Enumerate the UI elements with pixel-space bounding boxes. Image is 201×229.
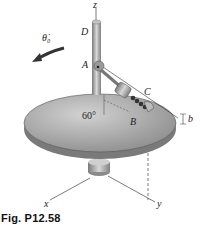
- label-z: z: [93, 0, 97, 10]
- diagram-figure: [0, 0, 201, 229]
- x-axis: [50, 178, 90, 200]
- label-y: y: [157, 199, 161, 209]
- disk-top: [24, 94, 176, 152]
- label-D: D: [81, 27, 88, 37]
- label-angle: 60°: [82, 111, 96, 121]
- label-B: B: [130, 117, 136, 127]
- label-x: x: [44, 199, 48, 209]
- rod-D: [92, 22, 101, 95]
- label-theta-dot: θ̇₀: [42, 33, 50, 43]
- label-b: b: [188, 114, 193, 124]
- label-A: A: [82, 60, 88, 70]
- figure-caption: Fig. P12.58: [1, 212, 61, 224]
- label-C: C: [144, 87, 151, 97]
